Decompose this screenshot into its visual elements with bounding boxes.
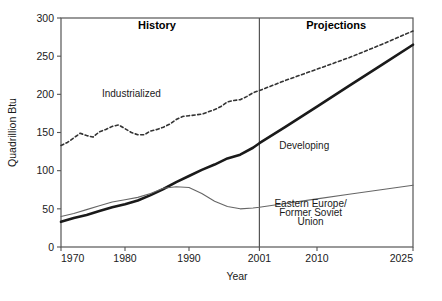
y-axis-tick-label: 250 — [36, 50, 54, 62]
y-axis-tick-label: 200 — [36, 88, 54, 100]
annotation-industrialized: Industrialized — [102, 88, 161, 99]
series-line-developing — [61, 45, 413, 222]
y-axis-tick-label: 100 — [36, 164, 54, 176]
x-axis-tick-label: 1970 — [61, 252, 85, 264]
chart-canvas: 0501001502002503001970198019902001201020… — [0, 0, 442, 301]
x-axis-tick-label: 2010 — [305, 252, 329, 264]
y-axis-tick-label: 300 — [36, 12, 54, 24]
energy-consumption-chart: 0501001502002503001970198019902001201020… — [0, 0, 442, 301]
x-axis-tick-label: 1990 — [177, 252, 201, 264]
annotation-union: Union — [298, 216, 324, 227]
annotation-history: History — [138, 19, 177, 31]
x-axis-tick-label: 2001 — [248, 252, 272, 264]
x-axis-tick-label: 1980 — [113, 252, 137, 264]
annotation-projections: Projections — [306, 19, 366, 31]
y-axis-title: Quadrillion Btu — [6, 98, 18, 167]
x-axis-tick-label: 2025 — [390, 252, 414, 264]
annotation-developing: Developing — [279, 140, 329, 151]
y-axis-tick-label: 50 — [42, 203, 54, 215]
x-axis-title: Year — [226, 270, 248, 282]
y-axis-tick-label: 0 — [48, 241, 54, 253]
y-axis-tick-label: 150 — [36, 126, 54, 138]
series-line-eastern-europe-former-soviet-union — [61, 185, 413, 216]
